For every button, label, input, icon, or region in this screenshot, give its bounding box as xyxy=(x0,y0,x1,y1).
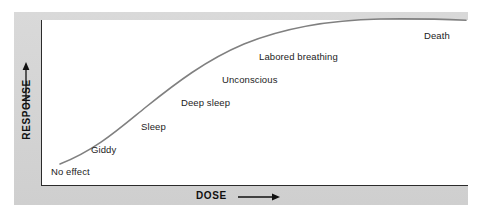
annotation-deep-sleep: Deep sleep xyxy=(181,97,230,108)
annotation-labored-breathing: Labored breathing xyxy=(259,51,338,62)
plot-area xyxy=(41,20,468,186)
annotation-unconscious: Unconscious xyxy=(222,74,278,85)
y-axis-title: RESPONSE xyxy=(12,72,40,184)
x-axis-label: DOSE xyxy=(196,190,227,201)
annotation-no-effect: No effect xyxy=(51,166,90,177)
annotation-sleep: Sleep xyxy=(141,121,166,132)
x-axis-title: DOSE xyxy=(196,190,227,201)
annotation-death: Death xyxy=(424,30,450,41)
annotation-giddy: Giddy xyxy=(91,144,116,155)
y-axis-label: RESPONSE xyxy=(21,79,32,139)
dose-response-figure: No effect Giddy Sleep Deep sleep Unconsc… xyxy=(0,0,482,215)
